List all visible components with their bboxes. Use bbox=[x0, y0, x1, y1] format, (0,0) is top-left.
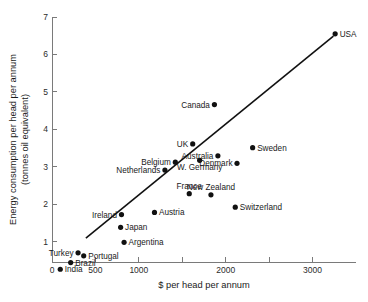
point-label-new-zealand: New Zealand bbox=[187, 183, 236, 192]
point-label-canada: Canada bbox=[181, 101, 210, 110]
data-point-switzerland bbox=[233, 205, 238, 210]
data-point-argentina bbox=[121, 240, 126, 245]
data-point-france bbox=[187, 191, 192, 196]
data-point-japan bbox=[118, 225, 123, 230]
data-point-usa bbox=[333, 31, 338, 36]
y-tick-label: 2 bbox=[43, 199, 48, 209]
point-label-india: India bbox=[65, 265, 83, 274]
y-axis-ticks: 1234567 bbox=[43, 12, 57, 247]
point-label-argentina: Argentina bbox=[129, 238, 164, 247]
data-point-sweden bbox=[250, 145, 255, 150]
y-tick-label: 4 bbox=[43, 124, 48, 134]
data-point-india bbox=[58, 267, 63, 272]
point-label-usa: USA bbox=[340, 30, 357, 39]
x-axis-title: $ per head per annum bbox=[158, 280, 250, 290]
y-tick-label: 7 bbox=[43, 12, 48, 22]
point-label-turkey: Turkey bbox=[49, 249, 75, 258]
point-label-ireland: Ireland bbox=[92, 211, 117, 220]
y-axis-title-line2: (tonnes oil equivalent) bbox=[20, 94, 30, 185]
point-label-netherlands: Netherlands bbox=[116, 166, 160, 175]
axes bbox=[52, 17, 356, 262]
y-tick-label: 3 bbox=[43, 162, 48, 172]
y-tick-label: 6 bbox=[43, 49, 48, 59]
data-point-labels: USACanadaSwedenUKAustraliaDenmarkBelgium… bbox=[49, 30, 357, 274]
data-point-australia bbox=[215, 153, 220, 158]
point-label-austria: Austria bbox=[159, 208, 185, 217]
x-tick-label: 0 bbox=[50, 265, 55, 275]
chart-canvas: 0500100020003000 1234567 USACanadaSweden… bbox=[0, 0, 368, 302]
data-point-netherlands bbox=[162, 167, 167, 172]
data-point-ireland bbox=[119, 212, 124, 217]
data-point-uk bbox=[190, 141, 195, 146]
point-label-switzerland: Switzerland bbox=[240, 203, 283, 212]
point-label-w-germany: W. Germany bbox=[177, 163, 223, 172]
data-point-canada bbox=[212, 102, 217, 107]
x-tick-label: 3000 bbox=[303, 265, 322, 275]
point-label-uk: UK bbox=[177, 140, 189, 149]
y-tick-label: 1 bbox=[43, 237, 48, 247]
data-point-new-zealand bbox=[208, 192, 213, 197]
y-tick-label: 5 bbox=[43, 87, 48, 97]
regression-line bbox=[86, 36, 334, 238]
data-point-turkey bbox=[75, 250, 80, 255]
data-point-denmark bbox=[234, 161, 239, 166]
point-label-sweden: Sweden bbox=[257, 144, 287, 153]
x-tick-label: 1000 bbox=[129, 265, 148, 275]
scatter-chart: 0500100020003000 1234567 USACanadaSweden… bbox=[0, 0, 368, 302]
point-label-japan: Japan bbox=[125, 223, 148, 232]
y-axis-title-line1: Energy consumption per head per annum bbox=[8, 54, 18, 225]
x-tick-label: 2000 bbox=[216, 265, 235, 275]
data-point-austria bbox=[152, 210, 157, 215]
trend-line bbox=[86, 36, 334, 238]
